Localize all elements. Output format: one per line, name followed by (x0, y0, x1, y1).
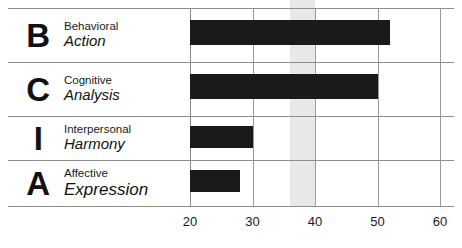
x-tick-label-60: 60 (420, 214, 460, 229)
bcia-bar-chart: B Behavioral Action C Cognitive Analysis… (0, 0, 462, 248)
row-text-behavioral: Behavioral Action (64, 20, 118, 50)
bar-interpersonal (190, 126, 253, 148)
row-keyword-harmony: Harmony (64, 136, 131, 153)
axis-baseline (8, 206, 454, 207)
row-text-interpersonal: Interpersonal Harmony (64, 123, 131, 153)
row-letter-i: I (18, 122, 58, 155)
row-text-affective: Affective Expression (64, 167, 148, 199)
x-tick-label-50: 50 (358, 214, 398, 229)
row-keyword-analysis: Analysis (64, 87, 120, 104)
row-label-behavioral: B Behavioral Action (0, 8, 182, 62)
bar-cognitive (190, 74, 378, 99)
row-label-cognitive: C Cognitive Analysis (0, 62, 182, 116)
chart-row-interpersonal: I Interpersonal Harmony (0, 116, 462, 160)
chart-row-affective: A Affective Expression (0, 160, 462, 206)
row-label-interpersonal: I Interpersonal Harmony (0, 116, 182, 160)
x-tick-label-20: 20 (170, 214, 210, 229)
row-text-cognitive: Cognitive Analysis (64, 74, 120, 104)
bar-behavioral (190, 20, 390, 45)
row-label-affective: A Affective Expression (0, 160, 182, 206)
chart-row-behavioral: B Behavioral Action (0, 8, 462, 62)
row-keyword-expression: Expression (64, 180, 148, 199)
row-keyword-action: Action (64, 33, 118, 50)
x-tick-label-30: 30 (233, 214, 273, 229)
row-descriptor-affective: Affective (64, 167, 148, 180)
row-letter-b: B (18, 19, 58, 52)
row-letter-c: C (18, 73, 58, 106)
chart-row-cognitive: C Cognitive Analysis (0, 62, 462, 116)
x-tick-label-40: 40 (295, 214, 335, 229)
row-letter-a: A (18, 167, 58, 200)
bar-affective (190, 170, 240, 192)
